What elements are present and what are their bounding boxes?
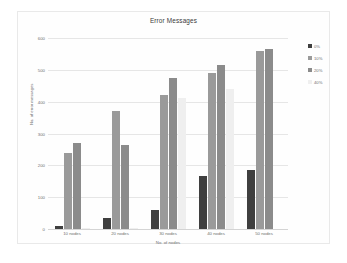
y-tick-label: 200 [38,163,45,168]
legend-label: 40% [314,80,322,85]
bar-group [96,38,144,229]
legend-swatch-icon [308,68,312,72]
legend-item[interactable]: 20% [308,64,347,76]
y-axis-title: No. of error messages [29,84,34,125]
bar [265,49,273,229]
bar-group [48,38,96,229]
x-tick-label: 30 nodes [144,231,192,236]
y-tick-label: 400 [38,99,45,104]
y-tick-label: 500 [38,67,45,72]
legend-swatch-icon [308,56,312,60]
bar [160,95,168,229]
bar [226,89,234,229]
bar-groups [48,38,288,229]
legend-label: 20% [314,68,322,73]
legend-item[interactable]: 40% [308,76,347,88]
bar-group [240,38,288,229]
bar [151,210,159,229]
x-axis-title: No. of nodes [48,240,288,245]
chart-title: Error Messages [18,17,329,24]
bar [82,228,90,229]
y-tick-label: 0 [43,227,45,232]
legend-label: 10% [314,56,322,61]
bar [64,153,72,229]
x-tick-label: 10 nodes [48,231,96,236]
legend-item[interactable]: 0% [308,40,347,52]
bar [217,65,225,229]
bar [121,145,129,229]
chart-legend: 0%10%20%40% [308,40,347,88]
gridline-0: 0 [48,229,288,230]
bar [169,78,177,229]
bar [103,218,111,229]
x-axis-tick-labels: 10 nodes20 nodes30 nodes40 nodes50 nodes [48,231,288,236]
bar [256,51,264,229]
chart-container: Error Messages No. of error messages 010… [17,11,330,244]
bar [178,98,186,229]
bar [247,170,255,229]
y-tick-label: 300 [38,131,45,136]
legend-item[interactable]: 10% [308,52,347,64]
legend-swatch-icon [308,44,312,48]
bar-group [192,38,240,229]
bar [73,143,81,229]
y-tick-label: 100 [38,195,45,200]
bar [112,111,120,229]
x-tick-label: 40 nodes [192,231,240,236]
legend-label: 0% [314,44,320,49]
legend-swatch-icon [308,80,312,84]
bar [55,226,63,229]
bar [130,228,138,229]
bar [199,176,207,229]
y-tick-label: 600 [38,36,45,41]
bar-group [144,38,192,229]
x-tick-label: 20 nodes [96,231,144,236]
bar [208,73,216,229]
x-tick-label: 50 nodes [240,231,288,236]
